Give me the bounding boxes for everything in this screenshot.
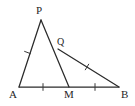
vertex-label-q: Q [57, 37, 64, 47]
vertex-label-b: B [121, 89, 128, 100]
vertex-label-m: M [64, 89, 74, 100]
vertex-label-p: P [36, 5, 42, 16]
vertex-label-a: A [9, 89, 17, 100]
tick-mark-ap [25, 51, 31, 53]
geometry-figure: P Q A M B [0, 0, 135, 106]
